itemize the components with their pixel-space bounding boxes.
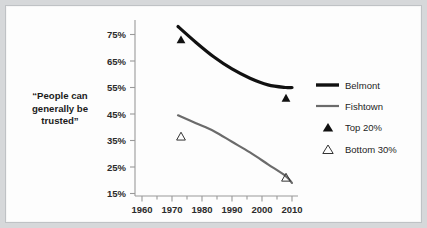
x-tick-label-1970: 1970 xyxy=(161,204,182,215)
x-tick-label-1980: 1980 xyxy=(191,204,212,215)
legend-label-top-20: Top 20% xyxy=(345,122,383,133)
chart-legend: Belmont Fishtown Top 20% Bottom 30% xyxy=(316,80,397,156)
series-markers-bottom-30 xyxy=(177,132,291,181)
y-tick-label-25: 25% xyxy=(107,162,127,173)
x-axis-tick-labels: 1960 1970 1980 1990 2000 2010 xyxy=(131,204,302,215)
y-axis-tick-labels: 75% 65% 55% 45% 35% 25% 15% xyxy=(107,29,127,199)
y-tick-label-35: 35% xyxy=(107,135,127,146)
marker-bottom-30 xyxy=(177,132,186,140)
legend-label-fishtown: Fishtown xyxy=(345,101,383,112)
x-tick-label-2010: 2010 xyxy=(281,204,302,215)
chart-canvas: “People can generally be trusted” 75% 65… xyxy=(5,5,422,223)
legend-filled-triangle-icon xyxy=(323,123,333,132)
legend-open-triangle-icon xyxy=(323,145,333,154)
chart-frame: “People can generally be trusted” 75% 65… xyxy=(0,0,427,228)
series-line-fishtown xyxy=(178,115,292,183)
marker-top-20 xyxy=(282,94,291,102)
y-tick-label-45: 45% xyxy=(107,109,127,120)
series-line-belmont xyxy=(178,27,292,88)
legend-label-bottom-30: Bottom 30% xyxy=(345,144,397,155)
y-tick-label-55: 55% xyxy=(107,82,127,93)
y-axis-ticks xyxy=(130,35,135,194)
x-axis-ticks xyxy=(142,196,292,202)
y-tick-label-15: 15% xyxy=(107,188,127,199)
x-tick-label-2000: 2000 xyxy=(251,204,272,215)
marker-top-20 xyxy=(177,36,186,44)
legend-label-belmont: Belmont xyxy=(345,80,380,91)
y-tick-label-75: 75% xyxy=(107,29,127,40)
x-tick-label-1990: 1990 xyxy=(221,204,242,215)
chart-plot: 75% 65% 55% 45% 35% 25% 15% xyxy=(6,6,421,222)
x-tick-label-1960: 1960 xyxy=(131,204,152,215)
y-tick-label-65: 65% xyxy=(107,56,127,67)
